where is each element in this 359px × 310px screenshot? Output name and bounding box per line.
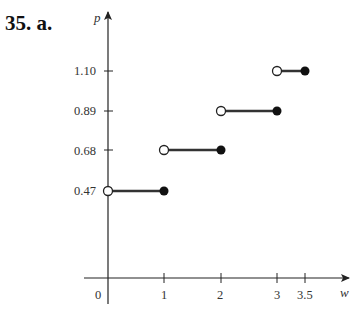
y-tick-label: 0.47 — [74, 184, 96, 198]
step-function-chart: p w 0 1 2 3 3.5 0.47 0.68 0.89 1.10 — [0, 0, 359, 310]
closed-endpoint — [273, 107, 282, 116]
y-axis-label: p — [93, 10, 101, 25]
y-tick-label: 0.89 — [74, 104, 96, 118]
closed-endpoint — [301, 67, 310, 76]
y-ticks: 0.47 0.68 0.89 1.10 — [74, 64, 113, 198]
open-endpoint — [217, 107, 226, 116]
step-segment-2 — [217, 107, 282, 116]
closed-endpoint — [160, 187, 169, 196]
x-tick-label: 2 — [217, 288, 223, 302]
closed-endpoint — [217, 146, 226, 155]
x-axis-label: w — [340, 285, 349, 300]
x-tick-label: 3.5 — [297, 288, 313, 302]
open-endpoint — [104, 187, 113, 196]
x-tick-label: 1 — [161, 288, 167, 302]
x-ticks: 0 1 2 3 3.5 — [95, 273, 313, 302]
x-tick-label: 3 — [274, 288, 280, 302]
y-tick-label: 1.10 — [74, 64, 96, 78]
step-segment-0 — [104, 187, 169, 196]
open-endpoint — [273, 67, 282, 76]
open-endpoint — [160, 146, 169, 155]
step-segments — [104, 67, 310, 196]
step-segment-3 — [273, 67, 310, 76]
y-tick-label: 0.68 — [74, 144, 96, 158]
x-tick-label: 0 — [95, 288, 101, 302]
step-segment-1 — [160, 146, 226, 155]
